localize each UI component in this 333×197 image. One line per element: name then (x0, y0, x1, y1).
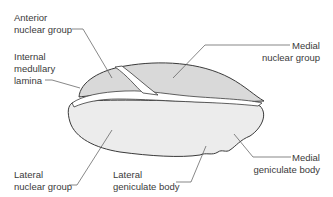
label-anterior-nuclear-group: Anterior nuclear group (14, 12, 72, 36)
lateral-thalamus-shape (68, 100, 263, 156)
label-internal-medullary-lamina: Internal medullary lamina (14, 51, 55, 87)
label-medial-geniculate-body: Medial geniculate body (253, 152, 320, 176)
label-medial-nuclear-group: Medial nuclear group (262, 40, 320, 64)
label-lateral-nuclear-group: Lateral nuclear group (14, 169, 72, 193)
label-lateral-geniculate-body: Lateral geniculate body (113, 169, 180, 193)
